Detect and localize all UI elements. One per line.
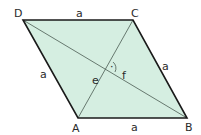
diagonal-label-e: e [92, 74, 99, 87]
vertex-label-c: C [131, 7, 139, 20]
side-label-left: a [40, 68, 47, 81]
side-label-top: a [76, 7, 83, 20]
right-angle-dot: · [110, 60, 114, 73]
rhombus-diagram: · D C A B a a a a e f [0, 0, 201, 135]
side-label-bottom: a [131, 121, 138, 134]
vertex-label-b: B [185, 121, 193, 134]
vertex-label-a: A [72, 122, 80, 135]
vertex-label-d: D [14, 7, 22, 20]
side-label-right: a [162, 60, 169, 73]
